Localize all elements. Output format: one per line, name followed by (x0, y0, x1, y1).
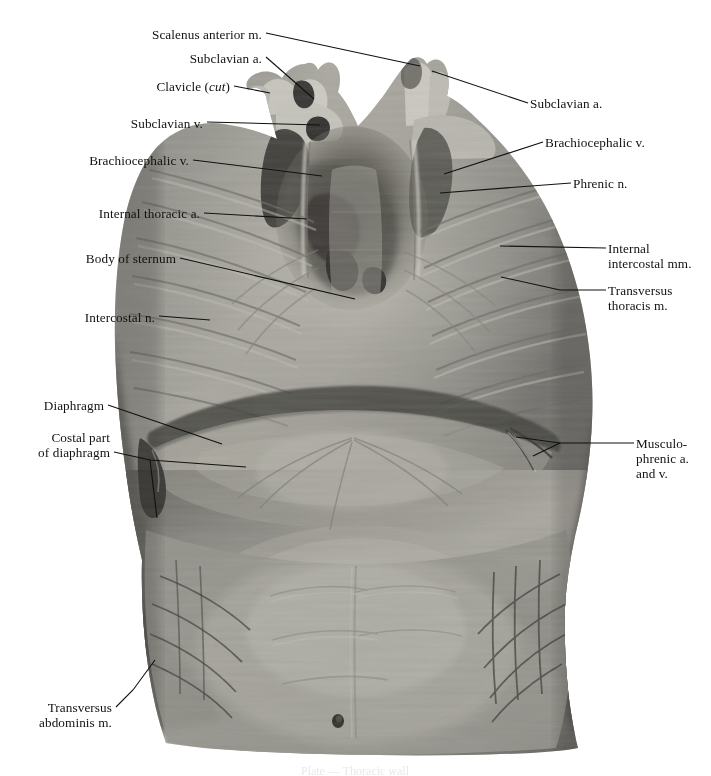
label-subclavian-v: Subclavian v. (0, 116, 203, 131)
label-musculophrenic: Musculo- phrenic a. and v. (636, 436, 689, 481)
label-brachiocephalic-v-left: Brachiocephalic v. (0, 153, 189, 168)
anatomical-plate: Scalenus anterior m.Subclavian a.Clavicl… (0, 0, 711, 776)
label-intercostal-n: Intercostal n. (0, 310, 155, 325)
label-scalenus-anterior: Scalenus anterior m. (0, 27, 262, 42)
label-subclavian-a-right: Subclavian a. (530, 96, 602, 111)
label-diaphragm: Diaphragm (0, 398, 104, 413)
label-transversus-abdominis: Transversus abdominis m. (0, 700, 112, 730)
label-internal-intercostal-mm: Internal intercostal mm. (608, 241, 692, 271)
label-transversus-thoracis-m: Transversus thoracis m. (608, 283, 672, 313)
label-body-of-sternum: Body of sternum (0, 251, 176, 266)
label-costal-part-of-diaphragm: Costal part of diaphragm (0, 430, 110, 460)
label-brachiocephalic-v-right: Brachiocephalic v. (545, 135, 645, 150)
label-internal-thoracic-a: Internal thoracic a. (0, 206, 200, 221)
label-clavicle-cut: Clavicle (cut) (0, 79, 230, 94)
plate-caption: Plate — Thoracic wall (205, 764, 505, 776)
label-phrenic-n: Phrenic n. (573, 176, 627, 191)
label-subclavian-a-left: Subclavian a. (0, 51, 262, 66)
